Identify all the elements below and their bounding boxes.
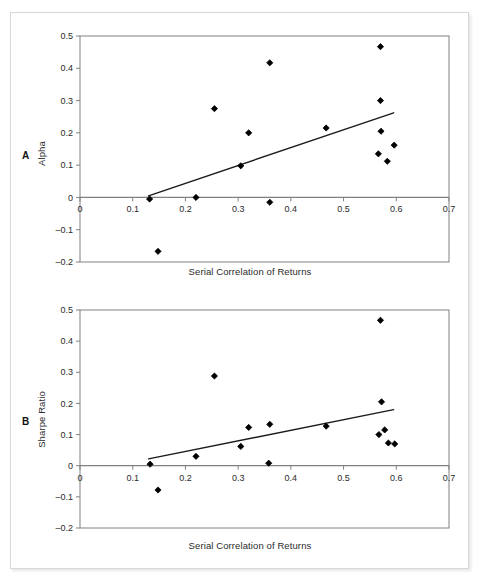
x-axis-tick-label: 0.2 [179,473,192,483]
x-axis-tick-label: 0 [77,473,82,483]
x-axis-tick-label: 0.6 [390,204,403,214]
data-point-marker [323,125,329,131]
x-axis-tick-label: 0.3 [232,204,245,214]
plot-frame [80,36,449,262]
data-point-marker [211,373,217,379]
data-point-marker [211,106,217,112]
y-axis-tick-label: 0.4 [60,336,73,346]
panel-b-x-axis-title: Serial Correlation of Returns [100,540,400,551]
plot-frame [80,310,449,528]
y-axis-tick-label: 0 [68,193,73,203]
x-axis-tick-label: 0.4 [285,204,298,214]
y-axis-tick-label: 0.3 [60,367,73,377]
y-axis-tick-label: 0.1 [60,430,73,440]
y-axis-tick-label: –0.1 [55,492,73,502]
y-axis-tick-label: 0.3 [60,96,73,106]
y-axis-tick-label: 0.5 [60,31,73,41]
data-point-marker [391,142,397,148]
data-point-marker [267,199,273,205]
y-axis-tick-label: 0.4 [60,63,73,73]
x-axis-tick-label: 0.6 [390,473,403,483]
x-axis-tick-label: 0.2 [179,204,192,214]
panel-a-plot: –0.2–0.100.10.20.30.40.500.10.20.30.40.5… [0,14,470,296]
data-point-marker [377,97,383,103]
figure-container: A Alpha Serial Correlation of Returns –0… [0,0,488,585]
x-axis-tick-label: 0.1 [126,204,139,214]
x-axis-tick-label: 0.3 [232,473,245,483]
panel-b: B Sharpe Ratio Serial Correlation of Ret… [0,288,470,573]
y-axis-tick-label: 0.2 [60,399,73,409]
data-point-marker [376,431,382,437]
data-point-marker [385,440,391,446]
data-point-marker [193,453,199,459]
panel-b-letter: B [22,416,29,427]
y-axis-tick-label: –0.1 [55,225,73,235]
x-axis-tick-label: 0.4 [285,473,298,483]
panel-a-y-axis-title: Alpha [36,119,47,189]
data-point-marker [246,130,252,136]
y-axis-tick-label: 0.5 [60,305,73,315]
data-point-marker [392,441,398,447]
y-axis-tick-label: 0.1 [60,160,73,170]
x-axis-tick-label: 0.7 [443,204,456,214]
panel-a-letter: A [22,150,29,161]
data-point-marker [246,424,252,430]
data-point-marker [375,151,381,157]
data-point-marker [377,44,383,50]
panel-b-plot: –0.2–0.100.10.20.30.40.500.10.20.30.40.5… [0,288,470,573]
x-axis-tick-label: 0.7 [443,473,456,483]
x-axis-tick-label: 0 [77,204,82,214]
data-point-marker [155,487,161,493]
x-axis-tick-label: 0.5 [337,473,350,483]
y-axis-tick-label: 0.2 [60,128,73,138]
y-axis-tick-label: –0.2 [55,257,73,267]
data-point-marker [384,158,390,164]
data-point-marker [378,128,384,134]
data-point-marker [267,60,273,66]
x-axis-tick-label: 0.5 [337,204,350,214]
data-point-marker [238,443,244,449]
panel-a-x-axis-title: Serial Correlation of Returns [100,266,400,277]
data-point-marker [193,194,199,200]
data-point-marker [378,399,384,405]
x-axis-tick-label: 0.1 [126,473,139,483]
data-point-marker [382,427,388,433]
trend-line [149,113,394,196]
trend-line [149,410,394,459]
data-point-marker [267,421,273,427]
data-point-marker [147,461,153,467]
data-point-marker [377,317,383,323]
panel-b-y-axis-title: Sharpe Ratio [36,373,47,467]
y-axis-tick-label: 0 [68,461,73,471]
data-point-marker [155,248,161,254]
y-axis-tick-label: –0.2 [55,523,73,533]
panel-a: A Alpha Serial Correlation of Returns –0… [0,14,470,296]
